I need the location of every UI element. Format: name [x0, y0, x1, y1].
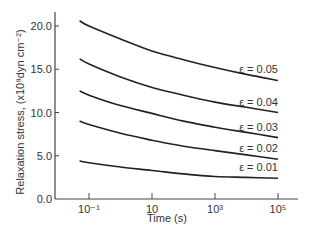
- series-label: ε = 0.02: [239, 142, 278, 154]
- x-tick-label: 10⁵: [270, 203, 287, 215]
- y-tick-label: 0.0: [37, 193, 52, 205]
- series-label: ε = 0.03: [239, 121, 278, 133]
- series-label: ε = 0.01: [239, 161, 278, 173]
- y-tick-label: 5.0: [37, 150, 52, 162]
- y-tick-label: 15.0: [31, 63, 52, 75]
- series-label: ε = 0.04: [239, 96, 278, 108]
- x-tick-label: 10³: [207, 203, 223, 215]
- x-tick-label: 10⁻¹: [78, 203, 100, 215]
- x-axis-title: Time (s): [147, 212, 187, 224]
- y-tick-label: 20.0: [31, 20, 52, 32]
- axes: 0.05.010.015.020.010⁻¹1010³10⁵: [31, 12, 298, 215]
- y-axis-title: Relaxation stress, (x10⁸dyn cm⁻²): [14, 29, 26, 194]
- relaxation-stress-chart: 0.05.010.015.020.010⁻¹1010³10⁵ ε = 0.05ε…: [0, 0, 311, 233]
- y-tick-label: 10.0: [31, 107, 52, 119]
- series-label: ε = 0.05: [239, 63, 278, 75]
